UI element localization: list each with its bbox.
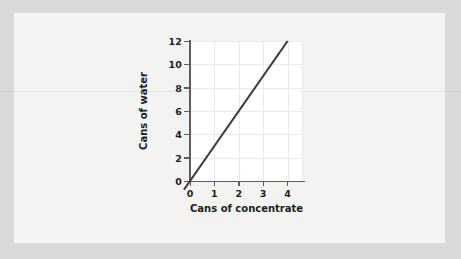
y-axis-title: Cans of water [138, 72, 149, 150]
x-tick-label: 3 [260, 188, 267, 199]
x-tick-label: 4 [284, 188, 291, 199]
y-tick-label: 8 [175, 82, 182, 93]
y-axis-tick [184, 134, 189, 135]
y-axis-tick [184, 157, 189, 158]
x-tick-label: 1 [211, 188, 218, 199]
line-chart-figure: 0 1 2 3 4 0 2 4 6 8 10 12 Cans of concen… [0, 0, 461, 259]
y-axis-tick [184, 111, 189, 112]
y-tick-label: 2 [175, 152, 182, 163]
x-axis-tick [190, 181, 191, 186]
gridline-horizontal [190, 64, 303, 65]
plot-area [190, 41, 303, 181]
gridline-horizontal [190, 158, 303, 159]
x-axis-title: Cans of concentrate [190, 203, 303, 214]
y-axis-tick [184, 64, 189, 65]
y-tick-label-column: 0 2 4 6 8 10 12 [160, 0, 182, 259]
y-axis-line [189, 40, 191, 182]
y-tick-label: 12 [169, 36, 182, 47]
y-axis-tick [184, 41, 189, 42]
screenshot-root: 0 1 2 3 4 0 2 4 6 8 10 12 Cans of concen… [0, 0, 461, 259]
x-axis-tick [238, 181, 239, 186]
gridline-horizontal [190, 41, 303, 42]
gridline-horizontal [190, 134, 303, 135]
y-axis-tick [184, 87, 189, 88]
y-axis-tick [184, 181, 189, 182]
x-axis-tick [263, 181, 264, 186]
x-axis-tick [214, 181, 215, 186]
y-tick-label: 6 [175, 106, 182, 117]
x-tick-label: 2 [235, 188, 242, 199]
y-tick-label: 0 [175, 176, 182, 187]
x-axis-tick [287, 181, 288, 186]
gridline-horizontal [190, 111, 303, 112]
y-tick-label: 4 [175, 129, 182, 140]
gridline-horizontal [190, 88, 303, 89]
y-tick-label: 10 [169, 59, 182, 70]
x-tick-label: 0 [187, 188, 194, 199]
